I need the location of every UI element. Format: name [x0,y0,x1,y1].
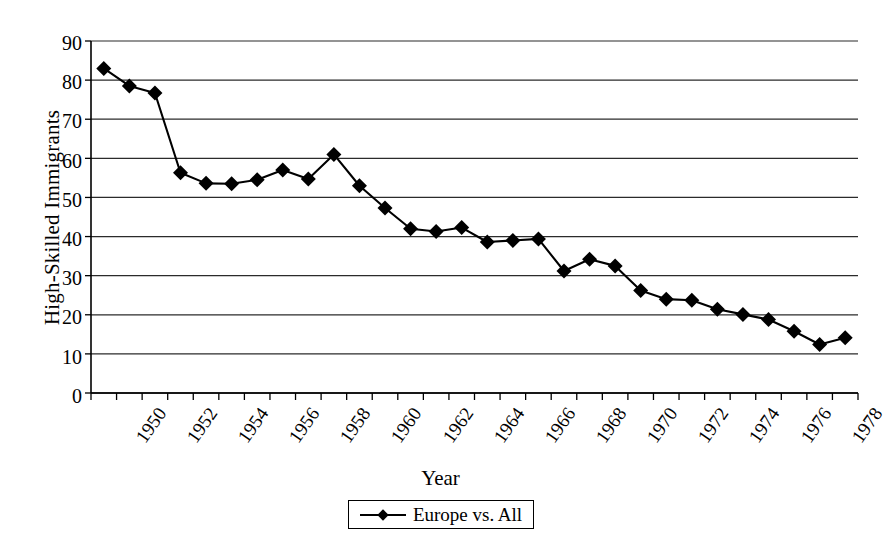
data-point [787,324,802,339]
data-point [659,292,674,307]
y-tick-label: 10 [48,347,82,367]
data-markers [96,61,852,352]
data-point [199,176,214,191]
y-tick-label: 30 [48,268,82,288]
data-point [250,172,265,187]
data-point [96,61,111,76]
x-axis-title: Year [0,466,881,491]
y-tick-label: 70 [48,111,82,131]
y-axis-ticks [85,41,91,393]
y-tick-label: 40 [48,229,82,249]
data-point [735,307,750,322]
data-point [147,86,162,101]
y-tick-label: 0 [48,386,82,406]
data-point [224,176,239,191]
chart-legend: Europe vs. All [348,500,534,529]
data-point [122,78,137,93]
y-tick-label: 80 [48,72,82,92]
legend-marker-icon [360,509,406,521]
data-line-europe-vs-all [104,68,845,344]
legend-label: Europe vs. All [413,505,522,524]
data-point [582,252,597,267]
data-point [812,337,827,352]
data-point [838,330,853,345]
y-tick-label: 90 [48,33,82,53]
data-point [275,163,290,178]
gridlines [91,41,858,393]
y-tick-label: 20 [48,307,82,327]
data-point [454,220,469,235]
data-point [173,165,188,180]
y-tick-label: 50 [48,190,82,210]
y-tick-label: 60 [48,151,82,171]
x-axis-ticks [91,393,858,400]
data-point [505,233,520,248]
data-point [684,293,699,308]
